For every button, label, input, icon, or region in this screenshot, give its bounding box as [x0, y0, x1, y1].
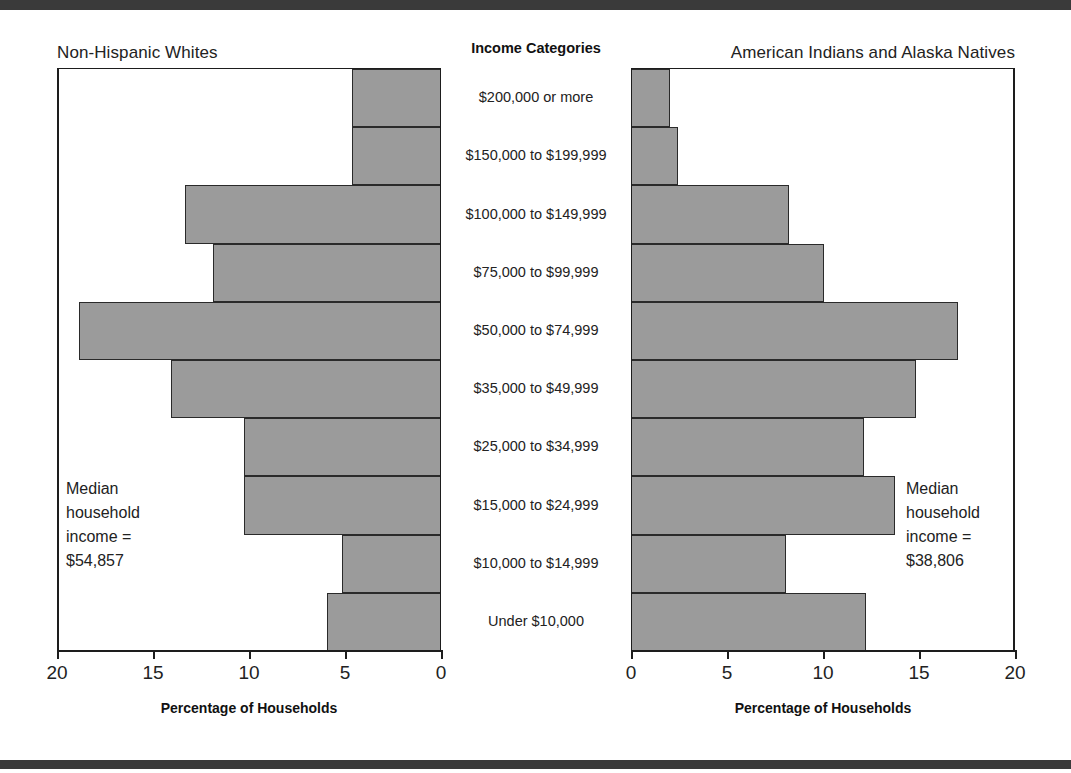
axis-tick-label: 15: [142, 662, 163, 684]
bar-left-5: [171, 360, 440, 418]
axis-tick-label: 5: [340, 662, 351, 684]
top-rule: [0, 0, 1071, 10]
category-label: $150,000 to $199,999: [465, 147, 606, 163]
bar-row: [632, 593, 1013, 651]
axis-tick-label: 0: [626, 662, 637, 684]
left-axis-title: Percentage of Households: [161, 700, 338, 716]
category-label: $25,000 to $34,999: [474, 438, 599, 454]
bar-left-4: [79, 302, 440, 360]
bar-left-8: [342, 535, 440, 593]
right-axis-title: Percentage of Households: [735, 700, 912, 716]
bar-left-6: [244, 418, 440, 476]
axis-tick: [1015, 650, 1017, 659]
bar-row: [59, 185, 440, 243]
bar-row: [632, 69, 1013, 127]
bottom-rule: [0, 760, 1071, 769]
bar-right-4: [632, 302, 958, 360]
axis-tick-label: 10: [238, 662, 259, 684]
axis-tick: [823, 650, 825, 659]
axis-tick: [919, 650, 921, 659]
bar-left-3: [213, 244, 440, 302]
bar-row: [632, 185, 1013, 243]
left-median-annotation: Median household income = $54,857: [66, 477, 140, 573]
bar-right-0: [632, 69, 670, 127]
bar-row: [632, 360, 1013, 418]
axis-tick: [727, 650, 729, 659]
axis-tick-label: 20: [1004, 662, 1025, 684]
category-label: Under $10,000: [488, 613, 584, 629]
axis-tick-label: 20: [46, 662, 67, 684]
category-label: $10,000 to $14,999: [474, 555, 599, 571]
bar-right-1: [632, 127, 678, 185]
axis-tick-label: 5: [722, 662, 733, 684]
bar-right-9: [632, 593, 866, 651]
bar-right-3: [632, 244, 824, 302]
axis-tick: [441, 650, 443, 659]
bar-row: [59, 127, 440, 185]
bar-right-8: [632, 535, 786, 593]
bar-right-7: [632, 476, 895, 534]
bar-row: [59, 593, 440, 651]
axis-tick: [631, 650, 633, 659]
bar-row: [59, 360, 440, 418]
left-panel-title: Non-Hispanic Whites: [57, 43, 218, 63]
axis-tick-label: 15: [908, 662, 929, 684]
axis-tick: [249, 650, 251, 659]
bar-left-1: [352, 127, 440, 185]
axis-tick-label: 10: [812, 662, 833, 684]
bar-left-7: [244, 476, 440, 534]
axis-tick-label: 0: [436, 662, 447, 684]
category-label: $50,000 to $74,999: [474, 322, 599, 338]
income-categories-header: Income Categories: [471, 40, 601, 56]
bar-row: [632, 244, 1013, 302]
bar-row: [59, 418, 440, 476]
bar-row: [632, 127, 1013, 185]
population-pyramid-figure: Non-Hispanic Whites American Indians and…: [0, 0, 1071, 773]
category-label: $75,000 to $99,999: [474, 264, 599, 280]
axis-tick: [345, 650, 347, 659]
category-label: $35,000 to $49,999: [474, 380, 599, 396]
bar-row: [59, 302, 440, 360]
bar-right-5: [632, 360, 916, 418]
bar-left-0: [352, 69, 440, 127]
bar-row: [59, 69, 440, 127]
bar-left-2: [185, 185, 440, 243]
right-panel-title: American Indians and Alaska Natives: [731, 43, 1015, 63]
category-label: $200,000 or more: [479, 89, 593, 105]
category-label: $15,000 to $24,999: [474, 497, 599, 513]
axis-tick: [153, 650, 155, 659]
bar-right-2: [632, 185, 789, 243]
bar-row: [632, 302, 1013, 360]
axis-tick: [57, 650, 59, 659]
bar-row: [632, 418, 1013, 476]
bar-right-6: [632, 418, 864, 476]
bar-row: [59, 244, 440, 302]
category-label: $100,000 to $149,999: [465, 206, 606, 222]
right-median-annotation: Median household income = $38,806: [906, 477, 980, 573]
bar-left-9: [327, 593, 440, 651]
